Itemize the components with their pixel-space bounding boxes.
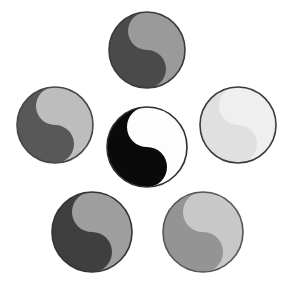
left-yin-yang	[17, 87, 93, 163]
bottom-left-yin-yang	[52, 192, 132, 272]
center-yin-yang	[107, 107, 187, 187]
top-yin-yang	[109, 12, 185, 88]
yin-yang-figure-svg	[0, 0, 293, 285]
right-yin-yang	[200, 87, 276, 163]
bottom-right-yin-yang	[163, 192, 243, 272]
yin-yang-figure-canvas	[0, 0, 293, 285]
